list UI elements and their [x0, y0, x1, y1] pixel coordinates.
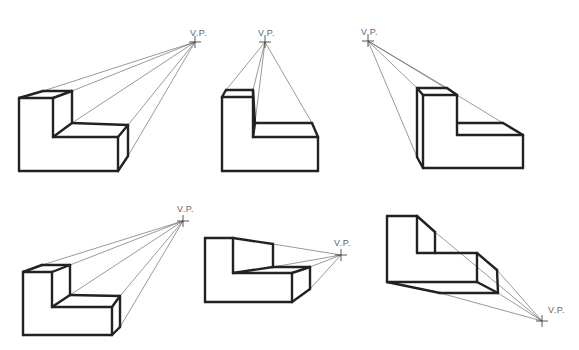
- object-edge: [52, 295, 70, 307]
- perspective-figure-6: V.P.: [387, 216, 565, 327]
- perspective-figure-4: V.P.: [23, 204, 194, 335]
- vanishing-point-label: V.P.: [334, 238, 351, 248]
- projection-line: [368, 41, 417, 88]
- projection-line: [265, 42, 312, 123]
- projection-line: [128, 42, 195, 125]
- projection-line: [310, 255, 341, 267]
- perspective-figure-5: V.P.: [205, 238, 351, 302]
- projection-line: [255, 42, 265, 123]
- projection-line: [435, 232, 542, 321]
- vanishing-point-label: V.P.: [190, 28, 207, 38]
- projection-line: [128, 42, 195, 156]
- projection-line: [72, 42, 195, 123]
- vanishing-point-label: V.P.: [258, 28, 275, 38]
- object-edge: [118, 156, 128, 171]
- perspective-figure-3: V.P.: [361, 27, 523, 168]
- object-edge: [233, 238, 273, 244]
- projection-line: [497, 270, 542, 321]
- vanishing-point-label: V.P.: [361, 27, 378, 37]
- projection-line: [440, 293, 542, 321]
- projection-line: [70, 221, 183, 295]
- vanishing-point-cross-icon: [177, 215, 189, 227]
- projection-line: [120, 221, 183, 296]
- object-edge: [70, 295, 120, 296]
- projection-line: [70, 221, 183, 265]
- projection-line: [120, 221, 183, 327]
- object-edge: [72, 123, 128, 125]
- object-edge: [312, 123, 318, 137]
- object-edge: [503, 123, 523, 135]
- object-edge: [497, 270, 498, 293]
- projection-line: [310, 255, 341, 289]
- vanishing-point-label: V.P.: [548, 305, 565, 315]
- vanishing-point-label: V.P.: [177, 204, 194, 214]
- object-edge: [292, 289, 310, 302]
- projection-line: [42, 221, 183, 265]
- projection-line: [368, 41, 417, 157]
- projection-line: [43, 42, 195, 91]
- projection-line: [498, 293, 542, 321]
- object-edge: [53, 123, 72, 137]
- object-edge: [118, 125, 128, 137]
- object-edge: [477, 253, 497, 270]
- perspective-diagram: V.P.V.P.V.P.V.P.V.P.V.P.: [0, 0, 579, 350]
- projection-line: [273, 255, 341, 267]
- vanishing-point-cross-icon: [536, 315, 548, 327]
- projection-line: [72, 42, 195, 91]
- object-edge: [387, 282, 440, 293]
- object-edge: [477, 282, 498, 293]
- perspective-figure-1: V.P.: [19, 28, 207, 171]
- perspective-figure-2: V.P.: [222, 28, 318, 171]
- projection-line: [368, 41, 503, 123]
- projection-line: [273, 244, 341, 255]
- object-edge: [417, 216, 435, 232]
